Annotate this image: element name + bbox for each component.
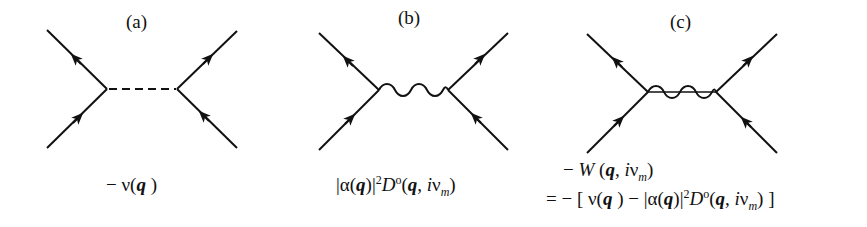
arrow-icon [616,61,622,67]
formula-c-line2: = − [ ν(q ) − |α(q)|2Do(q, iνm) ] [546,189,775,208]
arrow-icon [745,121,751,127]
arrow-icon [475,117,481,123]
arrow-icon [347,60,353,66]
wavy-phonon-propagator [379,84,448,96]
arrow-icon [203,115,209,121]
arrow-icon [203,58,209,64]
arrow-icon [345,118,351,124]
diagram-a [47,30,237,148]
arrow-icon [75,58,81,64]
panel-label-c: (c) [670,12,691,31]
arrow-icon [73,117,79,123]
panel-label-b: (b) [398,8,420,27]
formula-c-line1: − W (q, iνm) [563,160,653,179]
panel-label-a: (a) [126,12,147,31]
formula-b: |α(q)|2Do(q, iνm) [336,175,456,194]
arrow-icon [475,58,481,64]
arrow-icon [743,60,749,66]
formula-a: − ν(q ) [106,175,157,194]
diagram-c [587,34,777,153]
diagram-b [319,33,508,150]
arrow-icon [614,120,620,126]
